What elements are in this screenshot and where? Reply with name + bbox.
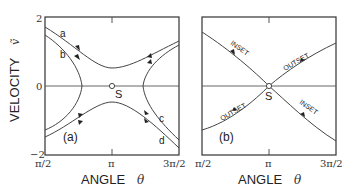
arrow-icon: [147, 53, 152, 58]
saddle-point: [266, 83, 271, 88]
arrow-icon: [147, 59, 152, 64]
label-outset-lower: OUTSET: [219, 101, 248, 122]
x-tick-label-pi: π: [265, 158, 272, 169]
arrow-icon: [144, 110, 149, 115]
panel-tag-b: (b): [219, 130, 234, 144]
x-tick-label-3pi-half: 3π/2: [163, 158, 186, 169]
panel-a: S a b c d (a) π/2 π 3π/2 ANGLE θ: [35, 17, 186, 187]
x-axis-symbol: θ: [137, 173, 145, 187]
label-outset-upper: OUTSET: [282, 51, 311, 72]
manifold-outset-upper: [269, 43, 336, 86]
curve-label-d: d: [159, 135, 165, 146]
x-tick-label-3pi-half: 3π/2: [320, 158, 343, 169]
label-inset-upper: INSET: [229, 39, 250, 57]
panel-b: S INSET OUTSET OUTSET INSET (b) π/2 π 3π…: [195, 17, 343, 187]
saddle-label: S: [115, 88, 122, 100]
trajectory-c: [143, 45, 179, 140]
x-tick-label-pi-half: π/2: [195, 158, 211, 169]
arrow-icon: [74, 54, 80, 60]
y-axis-label: VELOCITY: [7, 57, 22, 122]
saddle-label: S: [265, 90, 272, 102]
arrow-icon: [78, 120, 83, 125]
x-tick-label-pi-half: π/2: [35, 158, 51, 169]
y-axis-symbol: ṽ: [9, 38, 22, 45]
y-tick-label-2: 2: [36, 13, 42, 24]
x-tick-label-pi: π: [108, 158, 115, 169]
curve-label-b: b: [60, 49, 66, 60]
curve-label-a: a: [60, 28, 66, 39]
x-axis-symbol: θ: [294, 173, 302, 187]
x-axis-label: ANGLE: [81, 172, 125, 187]
y-tick-label-0: 0: [36, 81, 42, 92]
phase-portrait-figure: VELOCITY ṽ 2 0 −2 S a b c d (a): [0, 0, 358, 193]
curve-label-c: c: [159, 113, 164, 124]
panel-tag-a: (a): [63, 130, 78, 144]
x-axis-label: ANGLE: [238, 172, 282, 187]
saddle-point: [109, 83, 114, 88]
